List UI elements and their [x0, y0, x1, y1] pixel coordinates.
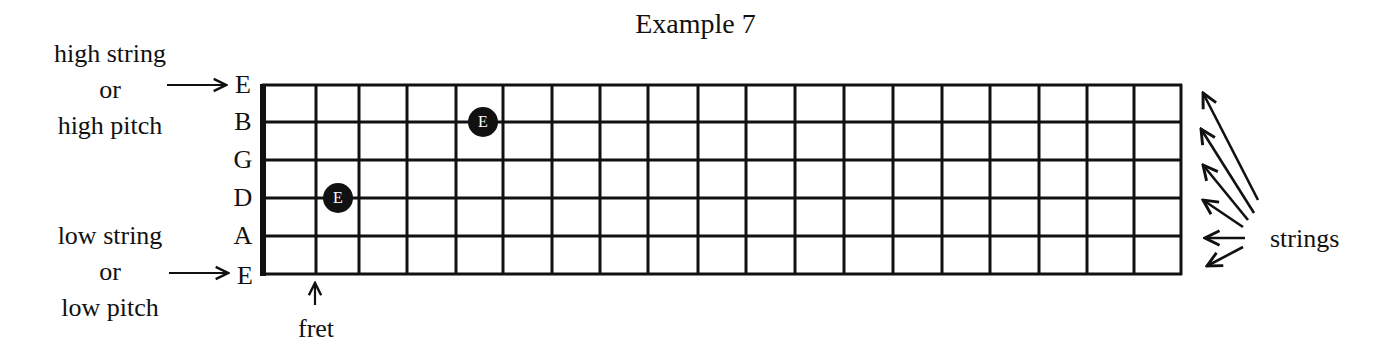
- strings-arrows: [1201, 93, 1258, 266]
- fret-lines: [316, 84, 1181, 275]
- note-label-d-string: E: [326, 188, 350, 208]
- note-label-b-string: E: [471, 112, 495, 132]
- strings-label: strings: [1270, 224, 1339, 254]
- string-lines: [262, 85, 1182, 274]
- fret-label: fret: [298, 314, 334, 344]
- fretboard-graphic: [0, 0, 1391, 358]
